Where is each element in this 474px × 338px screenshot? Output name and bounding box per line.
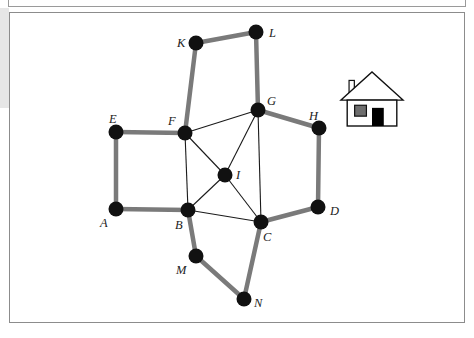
node-label-E: E [109, 113, 117, 126]
node-label-C: C [263, 231, 271, 244]
node-label-L: L [269, 27, 276, 40]
node-label-N: N [254, 297, 262, 310]
top-toolbar-strip [8, 0, 466, 7]
node-label-D: D [330, 205, 339, 218]
screenshot-root: ABCDEFGHIKLMN [0, 0, 474, 338]
node-label-F: F [168, 115, 176, 128]
node-label-H: H [309, 110, 318, 123]
node-label-M: M [176, 264, 186, 277]
node-label-I: I [236, 169, 240, 182]
node-label-G: G [267, 95, 276, 108]
node-label-K: K [177, 37, 185, 50]
node-label-A: A [100, 217, 108, 230]
node-label-B: B [175, 219, 183, 232]
left-gutter-rail[interactable] [0, 8, 9, 108]
